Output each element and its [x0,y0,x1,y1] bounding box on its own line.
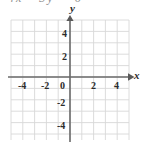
x-axis-label: x [134,70,140,81]
x-tick-label-2: 2 [91,81,96,91]
coordinate-grid-figure: 4x - 3y = 6 [0,0,144,148]
y-tick-label-4: 4 [62,29,67,39]
y-tick-label-minus4: -4 [57,121,65,131]
origin-tick-label: 0 [60,81,65,91]
coordinate-plane-svg [0,0,144,148]
y-tick-label-minus2: -2 [57,98,65,108]
y-axis-label: y [70,3,75,14]
y-tick-label-2: 2 [62,52,67,62]
x-tick-label-minus2: -2 [41,81,49,91]
x-tick-label-4: 4 [114,81,119,91]
x-tick-label-minus4: -4 [18,81,26,91]
